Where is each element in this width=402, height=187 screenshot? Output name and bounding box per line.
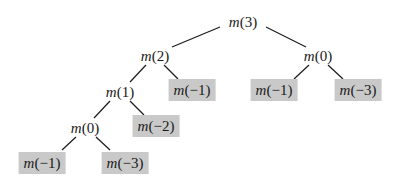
node-arg: (2) — [152, 48, 170, 64]
edge-m0-mneg1 — [294, 65, 309, 79]
node-arg: (0) — [315, 48, 333, 64]
node-fn: m — [174, 82, 185, 98]
node-arg: (−3) — [117, 155, 143, 171]
node-m1: m(1) — [106, 81, 134, 103]
edge-m3-m0 — [266, 27, 306, 47]
leaf-m-neg1-b: m(−1) — [251, 79, 298, 101]
node-fn: m — [107, 155, 118, 171]
node-fn: m — [24, 155, 35, 171]
recursion-tree-diagram: m(3) m(2) m(0) m(1) m(−1) m(−1) m(−3) m(… — [0, 0, 402, 187]
node-fn: m — [106, 84, 117, 100]
edge-m0-mneg3 — [328, 65, 343, 79]
node-m3-root: m(3) — [229, 11, 257, 33]
node-m0-right: m(0) — [304, 45, 332, 67]
node-fn: m — [229, 14, 240, 30]
node-fn: m — [71, 120, 82, 136]
edge-m1-mneg2 — [130, 101, 144, 115]
node-arg: (−1) — [266, 82, 292, 98]
node-arg: (−2) — [148, 118, 174, 134]
leaf-m-neg3-a: m(−3) — [335, 79, 382, 101]
node-arg: (0) — [82, 120, 100, 136]
leaf-m-neg3-b: m(−3) — [102, 152, 149, 174]
node-arg: (−1) — [184, 82, 210, 98]
node-fn: m — [256, 82, 267, 98]
node-fn: m — [141, 48, 152, 64]
leaf-m-neg2: m(−2) — [133, 115, 180, 137]
node-fn: m — [138, 118, 149, 134]
node-arg: (1) — [117, 84, 135, 100]
leaf-m-neg1-c: m(−1) — [19, 152, 66, 174]
leaf-m-neg1-a: m(−1) — [169, 79, 216, 101]
node-fn: m — [304, 48, 315, 64]
node-arg: (−3) — [350, 82, 376, 98]
node-arg: (−1) — [34, 155, 60, 171]
edge-m2-mneg1 — [164, 65, 178, 79]
edge-m1-m0 — [94, 101, 110, 118]
node-fn: m — [340, 82, 351, 98]
node-m2: m(2) — [141, 45, 169, 67]
node-m0-left: m(0) — [71, 117, 99, 139]
edge-m3-m2 — [172, 27, 220, 47]
node-arg: (3) — [240, 14, 258, 30]
edge-m2-m1 — [130, 65, 146, 82]
